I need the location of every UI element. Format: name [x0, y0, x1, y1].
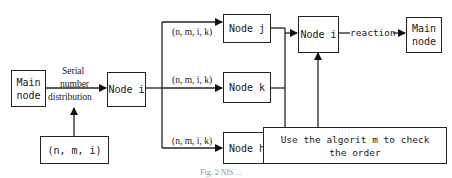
figure-caption: Fig. 2 NIS ... — [200, 168, 242, 177]
tuple-label-h: (n, m, i, k) — [172, 136, 212, 146]
node-k: Node k — [223, 72, 271, 103]
node-i-right: Node i — [298, 16, 339, 53]
main-node-left: Main node — [11, 70, 46, 107]
tuple-label-j: (n, m, i, k) — [172, 27, 212, 37]
serial-label-3: distribution — [48, 92, 92, 102]
main-node-right: Main node — [406, 17, 442, 53]
node-i-left: Node i — [107, 72, 146, 107]
node-j: Node j — [223, 14, 271, 43]
check-order-box: Use the algorit m to check the order — [263, 127, 447, 164]
tuple-label-k: (n, m, i, k) — [172, 75, 212, 85]
tuple-input-box: (n, m, i) — [40, 136, 109, 164]
reaction-label: reaction — [350, 27, 396, 38]
serial-label-1: Serial — [62, 66, 84, 76]
serial-label-2: number — [60, 79, 89, 89]
